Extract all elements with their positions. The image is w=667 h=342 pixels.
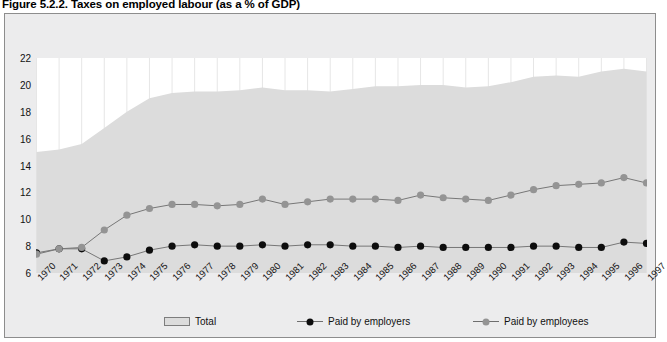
- y-axis-tick-label: 20: [20, 79, 31, 90]
- datapoint-paid-by-employers: [146, 247, 153, 254]
- datapoint-paid-by-employees: [146, 205, 153, 212]
- x-axis-tick-label: 1997: [645, 260, 667, 283]
- legend-swatch-dot-icon: [483, 318, 490, 325]
- datapoint-paid-by-employers: [349, 243, 356, 250]
- legend-label: Paid by employers: [328, 316, 410, 327]
- y-axis-tick-label: 22: [20, 53, 31, 64]
- y-axis-tick-label: 16: [20, 133, 31, 144]
- datapoint-paid-by-employers: [507, 244, 514, 251]
- y-axis-tick-label: 18: [20, 106, 31, 117]
- y-axis-labels: 6810121416182022: [5, 14, 36, 273]
- datapoint-paid-by-employers: [281, 243, 288, 250]
- datapoint-paid-by-employees: [78, 244, 85, 251]
- datapoint-paid-by-employees: [123, 212, 130, 219]
- datapoint-paid-by-employees: [304, 198, 311, 205]
- datapoint-paid-by-employees: [575, 181, 582, 188]
- datapoint-paid-by-employees: [620, 174, 627, 181]
- datapoint-paid-by-employers: [440, 244, 447, 251]
- datapoint-paid-by-employees: [440, 194, 447, 201]
- datapoint-paid-by-employees: [394, 197, 401, 204]
- datapoint-paid-by-employers: [485, 244, 492, 251]
- legend-swatch-dot-icon: [307, 318, 314, 325]
- plot-inner: [36, 58, 647, 273]
- datapoint-paid-by-employers: [620, 238, 627, 245]
- x-axis-labels: 1970197119721973197419751976197719781979…: [36, 273, 647, 319]
- datapoint-paid-by-employers: [575, 244, 582, 251]
- legend-swatch-area-icon: [164, 317, 190, 326]
- legend-item[interactable]: Paid by employers: [297, 316, 410, 327]
- datapoint-paid-by-employers: [327, 241, 334, 248]
- legend-label: Paid by employees: [504, 316, 589, 327]
- datapoint-paid-by-employees: [214, 202, 221, 209]
- datapoint-paid-by-employers: [191, 241, 198, 248]
- datapoint-paid-by-employers: [462, 244, 469, 251]
- datapoint-paid-by-employees: [55, 245, 62, 252]
- legend-item[interactable]: Paid by employees: [473, 316, 589, 327]
- datapoint-paid-by-employers: [530, 243, 537, 250]
- series-svg: [36, 58, 647, 273]
- legend-label: Total: [195, 316, 216, 327]
- datapoint-paid-by-employers: [394, 244, 401, 251]
- datapoint-paid-by-employees: [191, 201, 198, 208]
- datapoint-paid-by-employees: [507, 191, 514, 198]
- legend-swatch-line-icon: [297, 317, 323, 326]
- y-axis-tick-label: 6: [25, 268, 31, 279]
- datapoint-paid-by-employers: [168, 243, 175, 250]
- datapoint-paid-by-employers: [123, 253, 130, 260]
- datapoint-paid-by-employers: [598, 244, 605, 251]
- datapoint-paid-by-employees: [281, 201, 288, 208]
- datapoint-paid-by-employees: [259, 195, 266, 202]
- y-axis-tick-label: 14: [20, 160, 31, 171]
- legend-swatch-line-icon: [473, 317, 499, 326]
- datapoint-paid-by-employees: [598, 179, 605, 186]
- datapoint-paid-by-employers: [553, 243, 560, 250]
- datapoint-paid-by-employers: [101, 257, 108, 264]
- datapoint-paid-by-employees: [553, 182, 560, 189]
- datapoint-paid-by-employees: [168, 201, 175, 208]
- datapoint-paid-by-employers: [417, 243, 424, 250]
- datapoint-paid-by-employers: [259, 241, 266, 248]
- datapoint-paid-by-employees: [372, 195, 379, 202]
- chart-legend: TotalPaid by employersPaid by employees: [36, 316, 647, 332]
- datapoint-paid-by-employees: [462, 195, 469, 202]
- datapoint-paid-by-employers: [214, 243, 221, 250]
- datapoint-paid-by-employees: [236, 201, 243, 208]
- datapoint-paid-by-employees: [101, 226, 108, 233]
- datapoint-paid-by-employees: [417, 191, 424, 198]
- datapoint-paid-by-employers: [372, 243, 379, 250]
- plot-area: [36, 58, 647, 273]
- y-axis-tick-label: 12: [20, 187, 31, 198]
- chart-frame: 6810121416182022 19701971197219731974197…: [4, 13, 656, 338]
- datapoint-paid-by-employees: [485, 197, 492, 204]
- figure-title: Figure 5.2.2. Taxes on employed labour (…: [2, 0, 300, 10]
- datapoint-paid-by-employers: [236, 243, 243, 250]
- y-axis-tick-label: 8: [25, 241, 31, 252]
- datapoint-paid-by-employees: [530, 186, 537, 193]
- datapoint-paid-by-employees: [349, 195, 356, 202]
- datapoint-paid-by-employees: [327, 195, 334, 202]
- area-series-total: [37, 69, 647, 273]
- legend-item[interactable]: Total: [164, 316, 216, 327]
- datapoint-paid-by-employers: [304, 241, 311, 248]
- y-axis-tick-label: 10: [20, 214, 31, 225]
